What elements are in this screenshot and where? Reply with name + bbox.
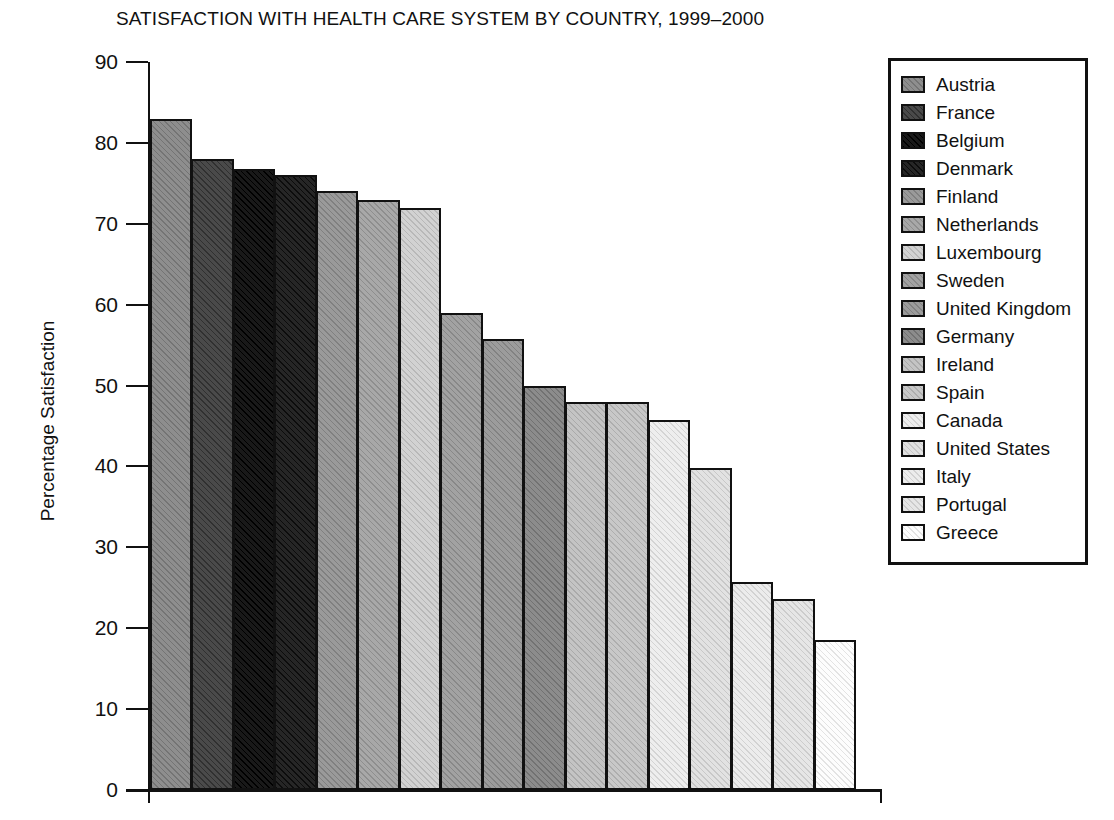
bar-canada [648, 420, 690, 790]
y-axis-tick [126, 142, 148, 144]
legend-item-united-kingdom[interactable]: United Kingdom [901, 294, 1085, 322]
y-axis-tick [126, 385, 148, 387]
y-axis-tick [126, 223, 148, 225]
y-axis-tick-label: 10 [40, 698, 118, 719]
y-axis-tick-label: 40 [40, 455, 118, 476]
legend-item-ireland[interactable]: Ireland [901, 350, 1085, 378]
legend-item-label: United States [936, 439, 1050, 458]
legend-swatch-icon [901, 440, 925, 457]
legend-item-germany[interactable]: Germany [901, 322, 1085, 350]
bar-portugal [772, 599, 814, 790]
y-axis-tick [126, 304, 148, 306]
legend-item-label: Austria [936, 75, 995, 94]
legend-swatch-icon [901, 160, 925, 177]
bar-france [191, 159, 233, 790]
bottom-caption [2, 806, 882, 820]
legend-swatch-icon [901, 412, 925, 429]
legend-item-label: Greece [936, 523, 998, 542]
legend-item-austria[interactable]: Austria [901, 70, 1085, 98]
legend-item-france[interactable]: France [901, 98, 1085, 126]
y-axis-tick-label: 70 [40, 213, 118, 234]
bar-luxembourg [399, 208, 441, 790]
legend-item-label: Luxembourg [936, 243, 1042, 262]
y-axis-tick-label: 50 [40, 375, 118, 396]
y-axis-tick [126, 465, 148, 467]
y-axis-tick [126, 708, 148, 710]
legend-item-greece[interactable]: Greece [901, 518, 1085, 546]
legend-item-label: Ireland [936, 355, 994, 374]
bar-spain [606, 402, 648, 790]
y-axis-tick-label: 80 [40, 132, 118, 153]
legend-swatch-icon [901, 384, 925, 401]
legend-item-label: Finland [936, 187, 998, 206]
legend-item-spain[interactable]: Spain [901, 378, 1085, 406]
y-axis-tick-label: 0 [40, 779, 118, 800]
legend-item-label: Italy [936, 467, 971, 486]
bar-netherlands [357, 200, 399, 790]
y-axis-tick-label: 20 [40, 617, 118, 638]
y-axis-tick-label: 60 [40, 294, 118, 315]
chart-legend: AustriaFranceBelgiumDenmarkFinlandNether… [888, 58, 1088, 565]
bar-germany [523, 386, 565, 790]
y-axis-tick [126, 546, 148, 548]
bar-belgium [233, 169, 275, 790]
legend-swatch-icon [901, 356, 925, 373]
legend-item-label: Portugal [936, 495, 1007, 514]
legend-swatch-icon [901, 328, 925, 345]
legend-swatch-icon [901, 496, 925, 513]
legend-swatch-icon [901, 216, 925, 233]
x-axis-end-tick [880, 789, 882, 803]
legend-item-denmark[interactable]: Denmark [901, 154, 1085, 182]
legend-item-belgium[interactable]: Belgium [901, 126, 1085, 154]
legend-item-label: Netherlands [936, 215, 1038, 234]
legend-item-label: Spain [936, 383, 985, 402]
legend-item-label: Germany [936, 327, 1014, 346]
chart-figure: SATISFACTION WITH HEALTH CARE SYSTEM BY … [0, 0, 1114, 820]
legend-item-label: France [936, 103, 995, 122]
y-axis-title: Percentage Satisfaction [37, 101, 59, 741]
legend-swatch-icon [901, 132, 925, 149]
legend-item-united-states[interactable]: United States [901, 434, 1085, 462]
legend-item-canada[interactable]: Canada [901, 406, 1085, 434]
legend-item-netherlands[interactable]: Netherlands [901, 210, 1085, 238]
y-axis-tick [126, 61, 148, 63]
legend-item-label: United Kingdom [936, 299, 1071, 318]
bar-denmark [274, 175, 316, 790]
legend-item-finland[interactable]: Finland [901, 182, 1085, 210]
legend-item-sweden[interactable]: Sweden [901, 266, 1085, 294]
bar-sweden [440, 313, 482, 790]
legend-item-label: Belgium [936, 131, 1005, 150]
legend-item-luxembourg[interactable]: Luxembourg [901, 238, 1085, 266]
legend-item-portugal[interactable]: Portugal [901, 490, 1085, 518]
chart-title: SATISFACTION WITH HEALTH CARE SYSTEM BY … [0, 8, 880, 30]
bar-greece [814, 640, 856, 790]
legend-swatch-icon [901, 104, 925, 121]
x-axis-origin-tick [148, 789, 150, 803]
legend-swatch-icon [901, 76, 925, 93]
legend-swatch-icon [901, 188, 925, 205]
plot-area [150, 62, 855, 790]
legend-swatch-icon [901, 468, 925, 485]
legend-item-label: Canada [936, 411, 1003, 430]
legend-item-label: Denmark [936, 159, 1013, 178]
legend-swatch-icon [901, 244, 925, 261]
bar-austria [150, 119, 192, 790]
bar-united-states [689, 468, 731, 790]
legend-swatch-icon [901, 524, 925, 541]
legend-item-italy[interactable]: Italy [901, 462, 1085, 490]
bar-ireland [565, 402, 607, 790]
y-axis-tick-label: 30 [40, 536, 118, 557]
y-axis-tick-label: 90 [40, 51, 118, 72]
legend-item-label: Sweden [936, 271, 1005, 290]
legend-swatch-icon [901, 272, 925, 289]
bar-italy [731, 582, 773, 790]
bar-finland [316, 191, 358, 790]
y-axis-tick [126, 627, 148, 629]
legend-swatch-icon [901, 300, 925, 317]
bar-united-kingdom [482, 339, 524, 790]
